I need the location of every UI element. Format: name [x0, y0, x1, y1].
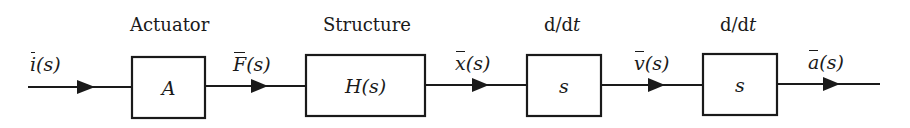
signal-arg: (s) — [36, 53, 61, 75]
block-title-diff-2: d/dt — [720, 16, 756, 34]
block-title-actuator: Actuator — [130, 16, 209, 34]
signal-var: v — [634, 54, 645, 73]
signal-arg: (s) — [246, 53, 271, 75]
title-prefix: d/d — [544, 14, 573, 35]
signal-label-force: F(s) — [233, 55, 271, 74]
block-content-diff-2: s — [703, 54, 777, 115]
arrowhead-icon — [472, 78, 489, 92]
signal-label-acceleration: a(s) — [808, 53, 844, 72]
title-var: t — [749, 14, 756, 35]
signal-label-input: i(s) — [30, 55, 61, 74]
block-content-structure: H(s) — [306, 55, 425, 116]
signal-label-displacement: x(s) — [455, 54, 490, 73]
arrowhead-icon — [77, 80, 95, 94]
block-title-structure: Structure — [323, 16, 411, 34]
arrowhead-icon — [648, 78, 665, 92]
signal-var: i — [30, 55, 36, 74]
arrowhead-icon — [251, 79, 268, 93]
block-content-diff-1: s — [527, 55, 601, 116]
arrowhead-icon — [823, 77, 840, 91]
signal-arg: (s) — [645, 52, 670, 74]
signal-label-velocity: v(s) — [634, 54, 669, 73]
title-var: t — [573, 14, 580, 35]
title-prefix: d/d — [720, 14, 749, 35]
signal-var: a — [808, 53, 819, 72]
signal-var: x — [455, 54, 466, 73]
signal-arg: (s) — [819, 51, 844, 73]
signal-var: F — [233, 55, 246, 74]
block-title-diff-1: d/dt — [544, 16, 580, 34]
block-content-actuator: A — [132, 57, 205, 118]
signal-arg: (s) — [466, 52, 491, 74]
